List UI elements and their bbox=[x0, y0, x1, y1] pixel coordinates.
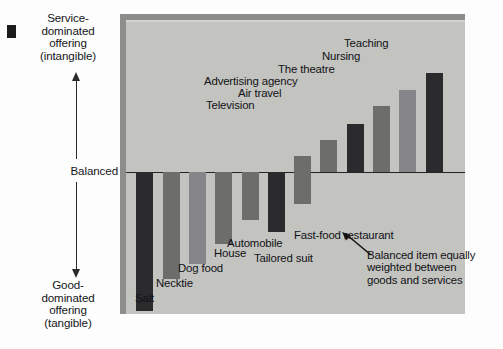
bar-house bbox=[215, 172, 232, 244]
figure-root: Service- dominated offering (intangible)… bbox=[0, 0, 503, 349]
bar-air-travel bbox=[320, 140, 337, 172]
bar-label-nursing: Nursing bbox=[322, 51, 360, 63]
up-arrow-icon bbox=[70, 72, 83, 158]
bar-label-the-theatre: The theatre bbox=[278, 64, 335, 76]
bar-salt bbox=[136, 172, 153, 311]
bar-label-automobile: Automobile bbox=[227, 238, 283, 250]
bar-automobile bbox=[242, 172, 259, 220]
bar-label-air-travel: Air travel bbox=[238, 88, 281, 100]
bar-label-advertising-agency: Advertising agency bbox=[204, 76, 298, 88]
bar-label-tailored-suit: Tailored suit bbox=[254, 253, 313, 265]
bar-nursing bbox=[399, 90, 416, 172]
bar-teaching bbox=[426, 73, 443, 172]
bar-fast-food-restaurant bbox=[294, 172, 311, 204]
annotation-text: Balanced item equally weighted between g… bbox=[367, 249, 487, 286]
axis-label-good-dominated: Good- dominated offering (tangible) bbox=[18, 279, 118, 329]
bar-television bbox=[294, 156, 311, 172]
bar-label-dog-food: Dog food bbox=[178, 263, 223, 275]
bar-label-teaching: Teaching bbox=[344, 38, 388, 50]
axis-label-service-dominated: Service- dominated offering (intangible) bbox=[18, 12, 118, 62]
bar-advertising-agency bbox=[347, 124, 364, 172]
bar-label-necktie: Necktie bbox=[156, 278, 193, 290]
bar-label-television: Television bbox=[206, 100, 255, 112]
axis-label-balanced: Balanced bbox=[18, 165, 118, 178]
bar-tailored-suit bbox=[268, 172, 285, 232]
bar-label-salt: Salt bbox=[135, 293, 154, 305]
corner-marker-icon bbox=[7, 25, 16, 38]
down-arrow-icon bbox=[70, 182, 83, 278]
bar-dog-food bbox=[189, 172, 206, 264]
bar-the-theatre bbox=[373, 106, 390, 172]
